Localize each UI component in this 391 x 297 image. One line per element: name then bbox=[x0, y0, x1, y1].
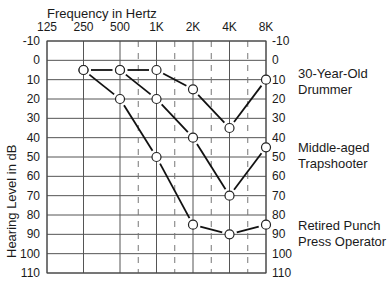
data-point-marker bbox=[152, 66, 161, 75]
data-point-marker bbox=[225, 124, 234, 133]
series-segment bbox=[200, 227, 222, 233]
series-label-line: Drummer bbox=[298, 82, 368, 98]
data-point-marker bbox=[189, 133, 198, 142]
data-point-marker bbox=[262, 143, 271, 152]
data-point-marker bbox=[116, 95, 125, 104]
series-label-line: Middle-aged bbox=[298, 140, 370, 156]
series-label-drummer: 30-Year-Old Drummer bbox=[298, 66, 368, 98]
series-label-line: Press Operator bbox=[298, 234, 386, 250]
data-point-marker bbox=[79, 66, 88, 75]
series-label-line: Retired Punch bbox=[298, 218, 386, 234]
data-point-marker bbox=[189, 85, 198, 94]
series-label-trapshooter: Middle-aged Trapshooter bbox=[298, 140, 370, 172]
data-point-marker bbox=[262, 220, 271, 229]
series-label-line: 30-Year-Old bbox=[298, 66, 368, 82]
data-point-marker bbox=[225, 230, 234, 239]
series-segment bbox=[234, 153, 261, 189]
series-segment bbox=[89, 75, 114, 95]
data-point-marker bbox=[262, 75, 271, 84]
data-point-marker bbox=[225, 191, 234, 200]
series-segment bbox=[237, 227, 259, 233]
data-point-marker bbox=[116, 66, 125, 75]
series-label-line: Trapshooter bbox=[298, 156, 370, 172]
series-segment bbox=[124, 105, 153, 150]
data-point-marker bbox=[152, 95, 161, 104]
series-label-punch-press: Retired Punch Press Operator bbox=[298, 218, 386, 250]
data-point-marker bbox=[152, 153, 161, 162]
data-point-marker bbox=[189, 220, 198, 229]
